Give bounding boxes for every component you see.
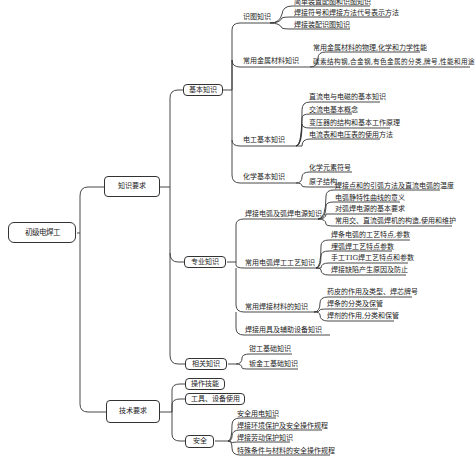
leaf-item[interactable]: 焊条的分类及保管	[326, 300, 384, 309]
node-operating-skills[interactable]: 操作技能	[185, 378, 225, 390]
leaf-item[interactable]: 焊接缺陷产生原因及防止	[330, 266, 409, 275]
leaf-item[interactable]: 电弧静特性曲线的意义	[334, 194, 406, 203]
leaf-item[interactable]: 交流电基本概念	[308, 106, 359, 115]
topic-arc-power-source[interactable]: 焊接电弧及弧焊电源知识	[244, 210, 323, 219]
topic-welding-tools-equipment[interactable]: 焊接用具及辅助设备知识	[244, 326, 323, 335]
leaf-item[interactable]: 药皮的作用及类型、焊芯牌号	[326, 288, 419, 297]
leaf-item[interactable]: 化学元素符号	[308, 164, 352, 173]
leaf-item[interactable]: 直流电与电磁的基本知识	[308, 93, 387, 102]
topic-welding-materials[interactable]: 常用焊接材料的知识	[244, 303, 309, 312]
leaf-item[interactable]: 焊接符号和焊接方法代号表示方法	[293, 9, 400, 18]
leaf-item[interactable]: 变压器的结构和基本工作原理	[308, 119, 401, 128]
leaf-item[interactable]: 钳工基础知识	[248, 345, 292, 354]
leaf-item[interactable]: 焊接劳动保护知识	[236, 434, 294, 443]
leaf-item[interactable]: 焊接装配识图知识	[293, 21, 351, 30]
node-professional-knowledge[interactable]: 专业知识	[184, 256, 226, 268]
leaf-item[interactable]: 焊接点和的引弧方法及直流电弧的温度	[334, 182, 455, 191]
root-node[interactable]: 初级电焊工	[8, 222, 76, 243]
node-basic-knowledge[interactable]: 基本知识	[183, 84, 223, 96]
branch-knowledge-requirements[interactable]: 知识要求	[104, 176, 160, 197]
leaf-item[interactable]: 焊剂的作用,分类和保管	[326, 312, 400, 321]
topic-chemistry-basics[interactable]: 化学基本知识	[242, 173, 286, 182]
topic-electrical-basics[interactable]: 电工基本知识	[242, 136, 286, 145]
topic-arc-welding-process[interactable]: 常用电弧焊工工艺知识	[244, 259, 316, 268]
node-tools-equipment-use[interactable]: 工具、设备使用	[185, 393, 245, 405]
leaf-item[interactable]: 手工TIG焊工艺特点和参数	[330, 254, 415, 263]
leaf-item[interactable]: 电流表和电压表的使用方法	[308, 131, 394, 140]
leaf-item[interactable]: 特殊条件与材料的安全操作规程	[236, 447, 336, 456]
leaf-item[interactable]: 焊接环境保护及安全操作规程	[236, 422, 329, 431]
leaf-item[interactable]: 常用交、直流弧焊机的构造,使用和维护	[334, 217, 457, 226]
leaf-item[interactable]: 焊条电弧的工艺特点,参数	[330, 231, 411, 240]
leaf-item[interactable]: 常用金属材料的物理,化学和力学性能	[312, 44, 428, 53]
topic-drawing-reading[interactable]: 识图知识	[242, 13, 272, 22]
node-related-knowledge[interactable]: 相关知识	[185, 358, 227, 370]
branch-technical-requirements[interactable]: 技术要求	[106, 400, 160, 423]
leaf-item[interactable]: 钣金工基础知识	[248, 360, 299, 369]
leaf-item[interactable]: 碳素结构钢,合金钢,有色金属的分类,牌号,性能和用途	[312, 58, 476, 67]
leaf-item[interactable]: 对弧焊电源的基本要求	[334, 205, 406, 214]
topic-metal-materials[interactable]: 常用金属材料知识	[242, 57, 300, 66]
leaf-item[interactable]: 安全用电知识	[236, 410, 280, 419]
leaf-item[interactable]: 埋弧焊工艺特点参数	[330, 243, 395, 252]
leaf-item[interactable]: 简单装置配图和识图知识	[293, 0, 372, 7]
node-safety[interactable]: 安全	[185, 435, 214, 448]
